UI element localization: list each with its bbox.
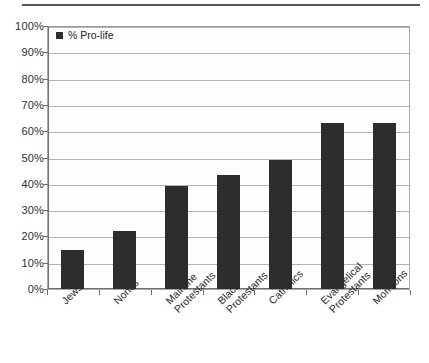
y-axis-tick-mark bbox=[43, 158, 48, 159]
y-axis-labels: 0%10%20%30%40%50%60%70%80%90%100% bbox=[0, 26, 44, 290]
y-axis-tick-mark bbox=[43, 236, 48, 237]
bar bbox=[217, 175, 240, 289]
bar bbox=[321, 123, 344, 289]
y-axis-tick-mark bbox=[43, 184, 48, 185]
bar bbox=[269, 160, 292, 289]
y-axis-tick-mark bbox=[43, 79, 48, 80]
y-axis-tick-mark bbox=[43, 131, 48, 132]
bar bbox=[373, 123, 396, 289]
bar-series bbox=[47, 26, 410, 290]
y-axis-tick-label: 20% bbox=[21, 230, 44, 242]
y-axis-tick-label: 30% bbox=[21, 204, 44, 216]
y-axis-tick-label: 60% bbox=[21, 125, 44, 137]
y-axis-tick-label: 10% bbox=[21, 257, 44, 269]
y-axis-tick-mark bbox=[43, 105, 48, 106]
y-axis-tick-label: 100% bbox=[15, 20, 44, 32]
legend: % Pro-life bbox=[56, 29, 114, 41]
bar bbox=[165, 186, 188, 289]
x-axis-labels: JewsNonesMainlineProtestantsBlackProtest… bbox=[0, 292, 429, 363]
page-rule bbox=[22, 4, 420, 6]
y-axis-tick-mark bbox=[43, 263, 48, 264]
legend-label: % Pro-life bbox=[68, 29, 114, 41]
bar-chart: 0%10%20%30%40%50%60%70%80%90%100% JewsNo… bbox=[0, 0, 429, 363]
y-axis-tick-mark bbox=[43, 26, 48, 27]
y-axis-tick-label: 80% bbox=[21, 73, 44, 85]
y-axis-tick-label: 70% bbox=[21, 99, 44, 111]
y-axis-tick-label: 40% bbox=[21, 178, 44, 190]
y-axis-tick-mark bbox=[43, 289, 48, 290]
y-axis-tick-mark bbox=[43, 210, 48, 211]
legend-swatch-icon bbox=[56, 32, 63, 39]
y-axis-tick-label: 90% bbox=[21, 46, 44, 58]
y-axis-tick-label: 50% bbox=[21, 152, 44, 164]
y-axis-tick-mark bbox=[43, 52, 48, 53]
